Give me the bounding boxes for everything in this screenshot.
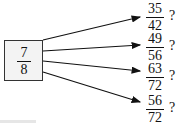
arrow-2	[43, 45, 140, 51]
target-fraction-3: 63 72	[146, 62, 164, 93]
arrow-3	[43, 61, 140, 71]
numerator: 35	[148, 2, 162, 16]
target-fraction-1: 35 42	[146, 2, 164, 33]
numerator: 56	[148, 94, 162, 108]
denominator: 72	[148, 79, 162, 93]
numerator: 49	[148, 32, 162, 46]
question-mark-1: ?	[169, 8, 175, 24]
question-mark-2: ?	[169, 38, 175, 54]
question-mark-4: ?	[169, 100, 175, 116]
target-fraction-4: 56 72	[146, 94, 164, 125]
denominator: 72	[148, 111, 162, 125]
arrow-1	[43, 17, 140, 40]
decorative-strip	[0, 120, 36, 123]
question-mark-3: ?	[169, 68, 175, 84]
numerator: 63	[148, 62, 162, 76]
arrow-4	[43, 72, 140, 102]
target-fraction-2: 49 56	[146, 32, 164, 63]
